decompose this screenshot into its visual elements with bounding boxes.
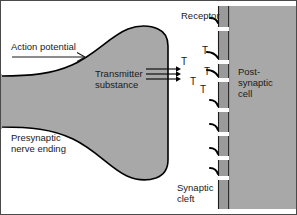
axon-left-edge: [0, 74, 2, 129]
release-arrowheads: [176, 66, 181, 82]
transmitter-molecule-1: T: [181, 57, 187, 67]
receptor-hook-2: [207, 52, 218, 58]
receptor-hooks: [207, 18, 218, 174]
synapse-diagram: Action potential Presynaptic nerve endin…: [0, 0, 297, 215]
postsynaptic-cell-label: Post- synaptic cell: [238, 66, 273, 99]
receptor-hook-7: [210, 168, 218, 174]
transmitter-substance-label: Transmitter substance: [95, 68, 143, 90]
synaptic-cleft-label: Synaptic cleft: [177, 182, 213, 204]
transmitter-molecule-5: T: [200, 85, 206, 95]
receptor-hook-5: [210, 124, 218, 130]
presynaptic-label: Presynaptic nerve ending: [11, 132, 66, 154]
action-potential-arrow: [12, 53, 85, 62]
transmitter-molecule-3: T: [202, 46, 208, 56]
receptor-hook-4: [210, 100, 218, 106]
transmitter-molecule-2: T: [190, 77, 196, 87]
transmitter-molecule-4: T: [204, 67, 210, 77]
receptor-label: Receptor: [181, 10, 220, 21]
diagram-graphics: [0, 0, 297, 215]
receptor-hook-6: [210, 148, 218, 154]
action-potential-label: Action potential: [11, 41, 76, 52]
postsynaptic-cell-body: [229, 6, 296, 209]
